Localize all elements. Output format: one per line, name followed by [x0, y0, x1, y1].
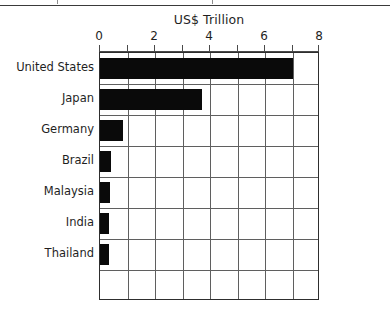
x-axis-tick-rail: [99, 45, 319, 52]
horizontal-gridline: [100, 177, 318, 178]
vertical-gridline: [238, 53, 239, 299]
category-label: Japan: [62, 92, 94, 105]
category-label: Germany: [41, 123, 94, 136]
horizontal-gridline: [100, 115, 318, 116]
bar: [100, 151, 111, 172]
x-axis-tick-label: 0: [95, 29, 103, 43]
horizontal-gridline: [100, 239, 318, 240]
x-axis-tick: [292, 45, 293, 52]
x-axis-tick-label: 6: [260, 29, 268, 43]
bar: [100, 244, 109, 265]
category-label: Malaysia: [44, 185, 94, 198]
chart-title: US$ Trillion: [99, 12, 319, 27]
bar: [100, 89, 202, 110]
x-axis-tick: [127, 45, 128, 52]
vertical-gridline: [210, 53, 211, 299]
x-axis-tick: [237, 45, 238, 52]
x-axis-tick: [209, 45, 210, 52]
x-axis-tick: [154, 45, 155, 52]
plot-area: [99, 52, 319, 300]
x-axis-tick: [99, 45, 100, 52]
x-axis-tick: [318, 45, 319, 52]
category-label: Thailand: [45, 247, 94, 260]
category-label: India: [66, 216, 94, 229]
x-axis-tick: [264, 45, 265, 52]
horizontal-gridline: [100, 208, 318, 209]
x-axis-tick: [182, 45, 183, 52]
vertical-gridline: [293, 53, 294, 299]
category-label: Brazil: [62, 154, 94, 167]
x-axis-tick-label: 4: [205, 29, 213, 43]
bar: [100, 120, 123, 141]
vertical-gridline: [265, 53, 266, 299]
x-axis-tick-label: 2: [150, 29, 158, 43]
horizontal-gridline: [100, 146, 318, 147]
bar: [100, 58, 293, 79]
bar: [100, 182, 110, 203]
horizontal-gridline: [100, 270, 318, 271]
horizontal-gridline: [100, 84, 318, 85]
bar-chart-figure: US$ Trillion United StatesJapanGermanyBr…: [0, 0, 390, 314]
bar: [100, 213, 109, 234]
category-label: United States: [16, 61, 94, 74]
x-axis-tick-label: 8: [315, 29, 323, 43]
